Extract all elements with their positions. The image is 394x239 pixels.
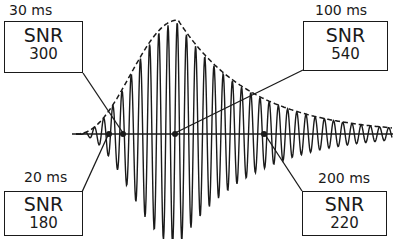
- leader-line-20ms: [82, 133, 109, 192]
- sample-point-200ms: [261, 131, 267, 137]
- time-label-200ms: 200 ms: [318, 170, 370, 186]
- time-label-20ms: 20 ms: [24, 169, 67, 185]
- snr-title: SNR: [5, 194, 82, 214]
- waveform-diagram: 30 ms SNR 300 100 ms SNR 540 20 ms SNR 1…: [0, 0, 394, 239]
- snr-title: SNR: [5, 25, 82, 45]
- snr-box-20ms: SNR 180: [4, 191, 83, 236]
- snr-value: 540: [304, 46, 387, 62]
- snr-value: 300: [5, 46, 82, 62]
- time-label-100ms: 100 ms: [315, 2, 367, 18]
- sample-point-100ms: [172, 131, 178, 137]
- sample-point-30ms: [120, 131, 126, 137]
- snr-box-200ms: SNR 220: [302, 191, 387, 236]
- snr-title: SNR: [303, 194, 386, 214]
- snr-value: 220: [303, 215, 386, 231]
- snr-box-30ms: SNR 300: [4, 21, 83, 73]
- snr-value: 180: [5, 215, 82, 231]
- snr-box-100ms: SNR 540: [303, 21, 388, 71]
- snr-title: SNR: [304, 25, 387, 45]
- sample-point-20ms: [106, 131, 112, 137]
- leader-line-200ms: [264, 133, 302, 191]
- time-label-30ms: 30 ms: [9, 2, 52, 18]
